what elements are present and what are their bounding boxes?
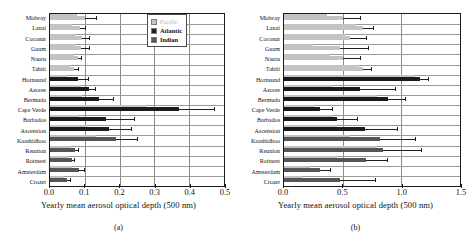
y-axis-label-reunion: Reunion [259, 148, 280, 154]
error-whisker [320, 170, 329, 171]
bar-row [50, 44, 224, 54]
bar-row [50, 85, 224, 95]
error-whisker-cap [397, 127, 398, 131]
panel-a: MidwayLanaiCoconutGuamNauruTahitiHornsun… [0, 0, 237, 245]
error-whisker-cap [78, 148, 79, 152]
bar-row [50, 125, 224, 135]
bar-segment-mean [284, 168, 320, 172]
y-axis-label-cape-verde: Cape Verde [252, 107, 280, 113]
bar-segment-mean [284, 127, 365, 131]
bar-segment-mean [50, 117, 106, 121]
error-whisker-cap [405, 97, 406, 101]
y-axis-label-azores: Azores [263, 87, 280, 93]
y-axis-label-rottnest: Rottnest [260, 158, 280, 164]
error-whisker-cap [81, 56, 82, 60]
error-whisker [340, 180, 375, 181]
bar-segment-mean [50, 97, 99, 101]
bar-row [284, 95, 460, 105]
error-whisker-cap [360, 16, 361, 20]
x-axis-tick-label: 0.4 [185, 188, 195, 197]
error-whisker [81, 48, 89, 49]
error-whisker [337, 119, 357, 120]
legend-item-pacific: Pacific [151, 17, 182, 26]
bar-row [284, 54, 460, 64]
bar-segment-mean [50, 148, 75, 152]
bar-row [284, 75, 460, 85]
panel-b-axis-title: Yearly mean aerosol optical depth (500 n… [237, 200, 474, 210]
y-axis-label-midway: Midway [26, 15, 46, 21]
legend-swatch-atlantic [151, 28, 157, 34]
error-whisker [340, 48, 368, 49]
panel-a-y-axis-labels: MidwayLanaiCoconutGuamNauruTahitiHornsun… [0, 13, 48, 187]
bar-row [50, 95, 224, 105]
y-axis-label-kaashidhoo: Kaashidhoo [251, 138, 280, 144]
error-whisker [106, 119, 135, 120]
bar-segment-mean [50, 46, 81, 50]
bar-row [50, 24, 224, 34]
error-whisker [383, 150, 422, 151]
bar-row [284, 176, 460, 186]
error-whisker [360, 89, 395, 90]
x-axis-tick-mark [119, 184, 120, 188]
bar-row [50, 176, 224, 186]
y-axis-label-ascension: Ascension [255, 128, 280, 134]
x-axis-tick-mark [49, 184, 50, 188]
error-whisker [179, 109, 214, 110]
error-whisker [78, 79, 88, 80]
bar-segment-mean [50, 178, 67, 182]
legend-item-indian: Indian [151, 35, 182, 44]
error-whisker [343, 58, 360, 59]
y-axis-label-coconut: Coconut [25, 36, 46, 42]
error-whisker-cap [371, 67, 372, 71]
error-whisker [109, 129, 131, 130]
error-whisker-cap [89, 46, 90, 50]
y-axis-label-guam: Guam [31, 46, 46, 52]
y-axis-label-lanai: Lanai [266, 25, 280, 31]
y-axis-label-tahiti: Tahiti [266, 66, 280, 72]
y-axis-label-nauru: Nauru [265, 56, 280, 62]
panel-b-axes [283, 13, 461, 187]
error-whisker [420, 79, 429, 80]
x-axis-tick-label: 0.3 [149, 188, 159, 197]
bar-row [50, 105, 224, 115]
y-axis-label-coconut: Coconut [259, 36, 280, 42]
error-whisker [343, 18, 361, 19]
bar-row [284, 146, 460, 156]
y-axis-label-ascension: Ascension [21, 128, 46, 134]
bar-row [284, 65, 460, 75]
bar-segment-mean [284, 46, 340, 50]
error-whisker-cap [360, 56, 361, 60]
error-whisker-cap [85, 26, 86, 30]
error-whisker-cap [70, 178, 71, 182]
error-whisker-cap [131, 127, 132, 131]
y-axis-label-azores: Azores [29, 87, 46, 93]
x-axis-tick-mark [402, 184, 403, 188]
bar-segment-mean [284, 16, 343, 20]
error-whisker [388, 99, 404, 100]
error-whisker [365, 129, 397, 130]
bar-segment-mean [284, 77, 420, 81]
bar-row [50, 146, 224, 156]
bar-row [50, 135, 224, 145]
error-whisker-cap [89, 36, 90, 40]
error-whisker-cap [357, 117, 358, 121]
bar-segment-mean [284, 117, 337, 121]
y-axis-label-barbados: Barbados [23, 117, 46, 123]
x-axis-tick-label: 0.5 [220, 188, 230, 197]
bar-row [50, 34, 224, 44]
x-axis-tick-mark [342, 184, 343, 188]
y-axis-label-barbados: Barbados [257, 117, 280, 123]
bar-segment-mean [284, 178, 340, 182]
error-whisker-cap [415, 137, 416, 141]
x-axis-tick-mark [155, 184, 156, 188]
bar-row [284, 166, 460, 176]
error-whisker-cap [96, 16, 97, 20]
y-axis-label-reunion: Reunion [25, 148, 46, 154]
bar-segment-mean [284, 87, 360, 91]
error-whisker-cap [214, 107, 215, 111]
error-whisker [366, 160, 388, 161]
error-whisker [350, 38, 366, 39]
x-axis-tick-label: 0.2 [114, 188, 124, 197]
bar-segment-mean [284, 26, 363, 30]
panel-b-label: (b) [237, 223, 474, 232]
